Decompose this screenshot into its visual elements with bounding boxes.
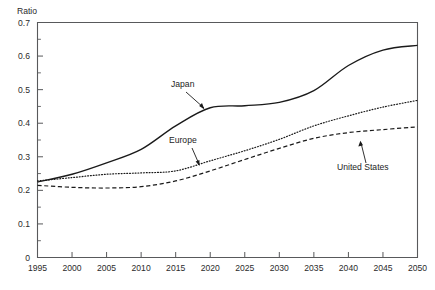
x-tick-label: 2045 <box>373 263 392 273</box>
plot-frame <box>37 22 418 258</box>
annotation-united-states: United States <box>337 141 389 172</box>
annotation-japan: Japan <box>171 79 205 110</box>
x-tick-label: 1995 <box>28 263 47 273</box>
y-axis-title: Ratio <box>17 6 37 16</box>
x-tick-label: 2000 <box>62 263 81 273</box>
x-tick-label: 2020 <box>201 263 220 273</box>
x-tick-label: 2040 <box>339 263 358 273</box>
x-tick-label: 2025 <box>235 263 254 273</box>
x-tick-label: 2010 <box>132 263 151 273</box>
y-tick-label: 0.5 <box>18 85 30 95</box>
x-tick-label: 2015 <box>166 263 185 273</box>
series-label-europe: Europe <box>169 135 197 145</box>
y-tick-label: 0.1 <box>18 219 30 229</box>
annotation-europe: Europe <box>169 135 200 166</box>
series-label-united-states: United States <box>337 162 389 172</box>
x-tick-label: 2030 <box>270 263 289 273</box>
x-tick-label: 2050 <box>408 263 427 273</box>
y-tick-label: 0.3 <box>18 152 30 162</box>
series-line-united-states <box>38 127 418 188</box>
series-label-japan: Japan <box>171 79 195 89</box>
x-axis-tick-labels: 1995200020052010201520202025203020352040… <box>28 263 427 273</box>
y-tick-label: 0 <box>25 253 30 263</box>
y-tick-label: 0.7 <box>18 18 30 28</box>
chart-figure: Ratio 00.10.20.30.40.50.60.7 19952000200… <box>0 0 435 290</box>
leader-arrowhead-united-states <box>358 141 363 147</box>
y-tick-label: 0.2 <box>18 185 30 195</box>
x-tick-label: 2005 <box>97 263 116 273</box>
y-tick-label: 0.6 <box>18 51 30 61</box>
x-tick-label: 2035 <box>304 263 323 273</box>
x-axis-ticks <box>38 252 418 258</box>
y-axis-tick-labels: 00.10.20.30.40.50.60.7 <box>18 18 30 263</box>
leader-line-united-states <box>361 143 366 163</box>
y-tick-label: 0.4 <box>18 118 30 128</box>
